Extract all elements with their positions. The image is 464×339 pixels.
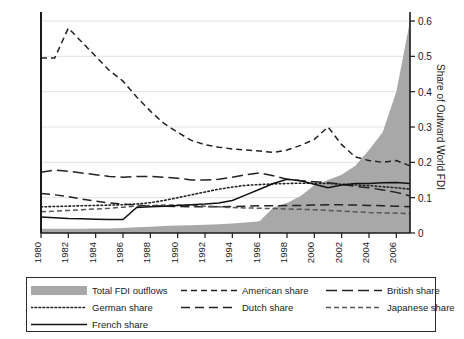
legend-label: Japanese share bbox=[387, 302, 455, 313]
dashdot-line-icon bbox=[326, 302, 382, 313]
chart-figure: 00.10.20.30.40.50.6198019821984198619881… bbox=[0, 0, 464, 339]
legend-label: Total FDI outflows bbox=[92, 285, 168, 296]
x-tick-label: 1990 bbox=[169, 242, 180, 263]
y-tick-label: 0 bbox=[418, 228, 424, 239]
solid-line-icon bbox=[31, 319, 87, 330]
legend-item-dutch-share[interactable]: Dutch share bbox=[181, 299, 326, 316]
x-tick-label: 1996 bbox=[251, 242, 262, 263]
legend-item-japanese-share[interactable]: Japanese share bbox=[326, 299, 456, 316]
legend-label: British share bbox=[387, 285, 440, 296]
x-tick-label: 1992 bbox=[196, 242, 207, 263]
legend-item-total-fdi-outflows[interactable]: Total FDI outflows bbox=[31, 282, 181, 299]
legend-item-french-share[interactable]: French share bbox=[31, 316, 181, 333]
x-tick-label: 2002 bbox=[333, 242, 344, 263]
x-tick-label: 1980 bbox=[32, 242, 43, 263]
y-axis-title: Share of Outward World FDI bbox=[430, 64, 446, 224]
x-tick-label: 2006 bbox=[387, 242, 398, 263]
dotted-line-icon bbox=[31, 302, 87, 313]
legend-label: French share bbox=[92, 319, 148, 330]
area-swatch-icon bbox=[31, 285, 87, 296]
dashed-line-icon bbox=[181, 285, 237, 296]
x-tick-label: 2000 bbox=[305, 242, 316, 263]
x-tick-label: 1982 bbox=[59, 242, 70, 263]
legend-label: American share bbox=[242, 285, 309, 296]
x-tick-label: 1984 bbox=[87, 242, 98, 263]
legend-item-german-share[interactable]: German share bbox=[31, 299, 181, 316]
y-tick-label: 0.6 bbox=[418, 16, 432, 27]
chart-legend: Total FDI outflowsAmerican shareBritish … bbox=[26, 277, 436, 332]
y-tick-label: 0.5 bbox=[418, 51, 432, 62]
legend-item-british-share[interactable]: British share bbox=[326, 282, 456, 299]
x-tick-label: 1998 bbox=[278, 242, 289, 263]
legend-label: Dutch share bbox=[242, 302, 293, 313]
series-american-share bbox=[41, 28, 410, 166]
longdash-line-icon bbox=[326, 285, 382, 296]
dashdash-line-icon bbox=[181, 302, 237, 313]
legend-item-american-share[interactable]: American share bbox=[181, 282, 326, 299]
x-tick-label: 1986 bbox=[114, 242, 125, 263]
x-tick-label: 1994 bbox=[223, 242, 234, 263]
x-tick-label: 2004 bbox=[360, 242, 371, 263]
x-tick-label: 1988 bbox=[141, 242, 152, 263]
legend-label: German share bbox=[92, 302, 153, 313]
